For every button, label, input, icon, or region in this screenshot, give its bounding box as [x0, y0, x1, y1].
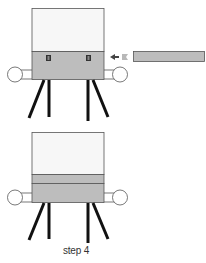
bottom-assembly: [8, 133, 128, 244]
box-upper: [32, 133, 104, 175]
left-handle: [8, 67, 34, 82]
box-lower-gray: [32, 184, 104, 203]
legs: [29, 80, 108, 121]
top-assembly: [8, 9, 205, 122]
assembly-diagram: [0, 0, 206, 263]
insert-panel: [134, 52, 205, 62]
insert-arrow-icon: [110, 54, 128, 60]
box-upper: [32, 9, 104, 52]
box-lower-gray: [32, 52, 104, 80]
right-handle: [103, 67, 128, 82]
screw-icon: [46, 55, 51, 61]
right-handle: [103, 190, 128, 205]
screw-icon: [86, 55, 91, 61]
left-handle: [8, 190, 34, 205]
inserted-panel: [32, 175, 104, 184]
step-label: step 4: [63, 245, 89, 256]
step-caption: step 4: [0, 245, 206, 256]
legs: [29, 203, 108, 243]
